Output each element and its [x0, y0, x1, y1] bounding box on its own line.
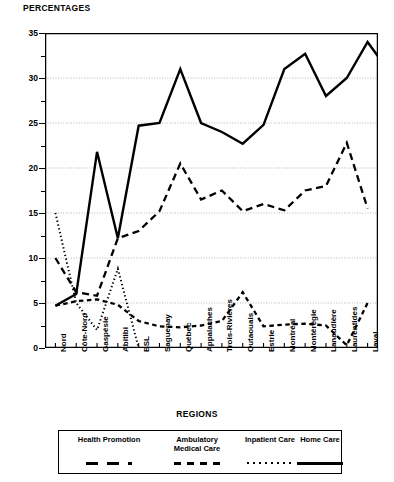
- y-axis-tick-label: 20: [16, 163, 38, 173]
- y-axis-tick-label: 5: [16, 298, 38, 308]
- x-axis-tick-label: Estrie: [267, 330, 276, 352]
- y-axis-tick-label: 35: [16, 28, 38, 38]
- x-axis-tick-label: Montréal: [288, 319, 297, 352]
- x-axis-title: REGIONS: [0, 409, 394, 419]
- y-axis-tick: [39, 348, 45, 349]
- x-axis-tick-label: Appalaches: [205, 307, 214, 352]
- legend-item-label: Inpatient Care: [239, 436, 301, 445]
- legend-label-line: Home Care: [297, 436, 343, 445]
- series-line-home-care: [55, 42, 378, 306]
- x-axis-tick-label: Nord: [59, 333, 68, 352]
- legend-label-line: Inpatient Care: [239, 436, 301, 445]
- chart-figure: PERCENTAGES 05101520253035 NordCôte-Nord…: [0, 0, 394, 482]
- x-axis-tick-label: Saguenay: [163, 314, 172, 352]
- legend-item-label: AmbulatoryMedical Care: [155, 436, 239, 453]
- legend-swatch: [247, 462, 293, 464]
- x-axis-tick-label: Trois-Rivières: [225, 299, 234, 352]
- x-axis-tick-label: Montérégie: [309, 309, 318, 352]
- y-axis-tick-label: 30: [16, 73, 38, 83]
- x-axis-tick-label: Lanaudière: [329, 309, 338, 352]
- legend-item-label: Home Care: [297, 436, 343, 445]
- y-axis-tick-label: 15: [16, 208, 38, 218]
- legend-swatch: [86, 462, 132, 465]
- x-axis-tick-label: Québec: [184, 323, 193, 352]
- legend-item-label: Health Promotion: [63, 436, 155, 445]
- y-axis-title: PERCENTAGES: [23, 3, 90, 13]
- chart-legend: Health PromotionAmbulatoryMedical CareIn…: [58, 430, 342, 474]
- chart-canvas: [45, 33, 378, 348]
- x-axis-tick-label: Abitibi: [121, 327, 130, 352]
- series-line-health-promotion: [55, 143, 367, 296]
- y-axis-tick-label: 25: [16, 118, 38, 128]
- x-axis-tick-label: Gaspésie: [101, 316, 110, 352]
- y-axis-tick-label: 10: [16, 253, 38, 263]
- legend-swatch: [297, 462, 343, 465]
- x-axis-tick-label: Côte-Nord: [80, 313, 89, 352]
- legend-label-line: Health Promotion: [63, 436, 155, 445]
- x-axis-tick-label: Laval: [371, 332, 380, 352]
- y-axis-tick-label: 0: [16, 343, 38, 353]
- x-axis-tick-label: Laurentides: [350, 307, 359, 352]
- legend-swatch: [174, 462, 220, 465]
- legend-label-line: Medical Care: [155, 445, 239, 454]
- x-axis-tick-label: Outaouais: [246, 313, 255, 352]
- plot-area: [45, 33, 378, 348]
- x-axis-tick-label: BSL: [142, 336, 151, 352]
